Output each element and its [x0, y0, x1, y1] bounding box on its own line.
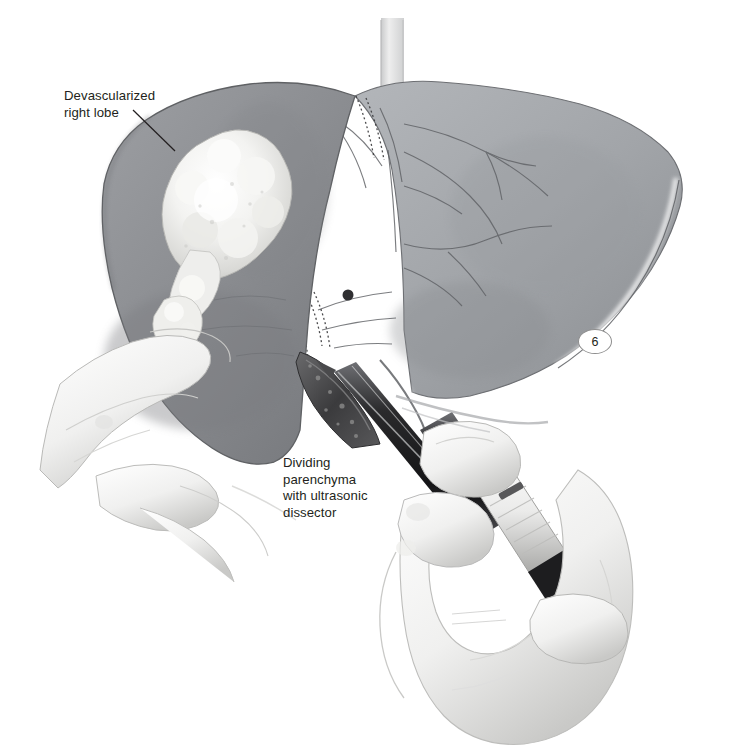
figure-root: Devascularized right lobe Dividing paren…: [0, 0, 744, 755]
label-dividing-parenchyma: Dividing parenchyma with ultrasonic diss…: [283, 455, 368, 521]
left-hepatic-lobe: [355, 81, 682, 398]
figure-number-badge: 6: [578, 329, 612, 354]
label-devascularized-right-lobe: Devascularized right lobe: [64, 88, 155, 121]
vessel-ligature: [343, 290, 354, 301]
